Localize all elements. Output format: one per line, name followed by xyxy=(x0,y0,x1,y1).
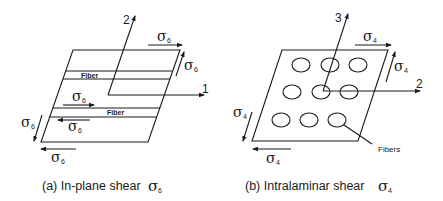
svg-text:4: 4 xyxy=(388,187,392,194)
stress-label-left: σ 6 xyxy=(21,114,35,130)
svg-text:4: 4 xyxy=(373,37,377,44)
cross-section-element xyxy=(252,50,388,141)
shear-diagram: 2 1 Fiber Fiber σ 6 σ 6 σ 6 σ 6 σ 6 σ 6 … xyxy=(0,0,443,201)
svg-text:σ: σ xyxy=(184,57,194,73)
svg-text:σ: σ xyxy=(68,118,78,134)
caption-a: (a) In-plane shear σ 6 xyxy=(42,177,162,195)
fiber-circle xyxy=(340,85,358,99)
stress-label-right: σ 4 xyxy=(394,58,408,74)
fiber-circle xyxy=(349,58,367,72)
panel-a-in-plane-shear xyxy=(34,16,204,149)
fiber-circle xyxy=(283,85,301,99)
svg-text:σ: σ xyxy=(72,88,82,104)
axis-1-label: 1 xyxy=(202,82,209,96)
stress-label-left: σ 4 xyxy=(233,104,247,120)
svg-text:(a) In-plane shear: (a) In-plane shear xyxy=(42,179,141,193)
stress-label-fiber-top: σ 6 xyxy=(72,88,86,104)
stress-arrow-left xyxy=(34,115,42,141)
svg-text:σ: σ xyxy=(363,28,373,44)
svg-text:6: 6 xyxy=(78,127,82,134)
svg-text:σ: σ xyxy=(378,177,388,195)
axis-3-arrow xyxy=(323,14,348,91)
axis-2-arrow xyxy=(108,16,135,95)
svg-text:4: 4 xyxy=(243,113,247,120)
svg-text:6: 6 xyxy=(31,123,35,130)
svg-text:6: 6 xyxy=(167,37,171,44)
lamina-element xyxy=(41,50,180,142)
svg-text:σ: σ xyxy=(148,177,158,195)
stress-arrow-right xyxy=(176,52,184,76)
fiber-circle xyxy=(272,113,290,127)
svg-text:6: 6 xyxy=(82,97,86,104)
fiber-circle xyxy=(292,58,310,72)
svg-text:σ: σ xyxy=(21,114,31,130)
svg-text:4: 4 xyxy=(404,67,408,74)
fiber-circle xyxy=(312,85,330,99)
fiber-label-2: Fiber xyxy=(107,109,124,116)
fiber-circle xyxy=(300,113,318,127)
axis-2-label: 2 xyxy=(123,13,130,27)
svg-text:σ: σ xyxy=(233,104,243,120)
stress-label-bottom: σ 6 xyxy=(51,149,65,165)
svg-text:σ: σ xyxy=(394,58,404,74)
axis-2-label: 2 xyxy=(416,77,423,91)
stress-label-top: σ 4 xyxy=(363,28,377,44)
fiber-label-1: Fiber xyxy=(81,72,98,79)
fiber-circle xyxy=(328,113,346,127)
axis-3-label: 3 xyxy=(335,11,342,25)
panel-b-intralaminar-shear xyxy=(243,14,420,149)
svg-text:σ: σ xyxy=(51,149,61,165)
svg-text:4: 4 xyxy=(276,159,280,166)
svg-text:6: 6 xyxy=(194,66,198,73)
svg-text:σ: σ xyxy=(266,150,276,166)
caption-b: (b) Intralaminar shear σ 4 xyxy=(245,177,392,195)
stress-label-bottom: σ 4 xyxy=(266,150,280,166)
svg-text:6: 6 xyxy=(158,187,162,194)
svg-text:6: 6 xyxy=(61,158,65,165)
svg-text:(b) Intralaminar shear: (b) Intralaminar shear xyxy=(245,179,365,193)
stress-label-right: σ 6 xyxy=(184,57,198,73)
fibers-label: Fibers xyxy=(378,145,400,154)
svg-text:σ: σ xyxy=(157,28,167,44)
stress-label-top: σ 6 xyxy=(157,28,171,44)
